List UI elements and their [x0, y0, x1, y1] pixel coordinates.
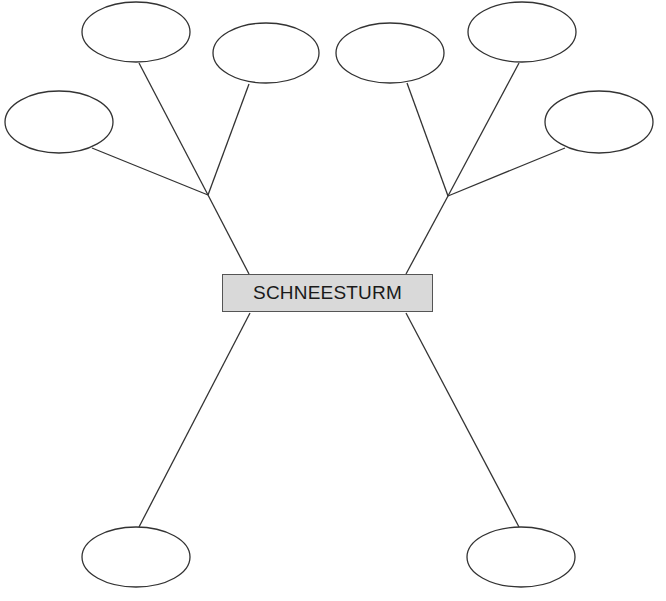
- connector-line: [139, 313, 250, 527]
- ellipse-node[interactable]: [82, 527, 190, 587]
- connector-line: [92, 148, 208, 195]
- center-topic-label: SCHNEESTURM: [253, 282, 402, 304]
- ellipse-node[interactable]: [82, 2, 190, 62]
- connector-line: [208, 84, 249, 195]
- ellipse-node[interactable]: [468, 2, 576, 62]
- center-topic-box[interactable]: SCHNEESTURM: [222, 274, 433, 312]
- connector-line: [407, 83, 448, 196]
- connector-line: [448, 63, 519, 196]
- ellipse-node[interactable]: [545, 91, 653, 153]
- ellipse-node[interactable]: [467, 527, 575, 587]
- ellipse-node[interactable]: [213, 23, 319, 83]
- connector-line: [406, 196, 448, 274]
- connector-line: [406, 313, 519, 527]
- connector-line: [139, 63, 208, 195]
- ellipse-node[interactable]: [5, 91, 113, 153]
- connector-line: [448, 148, 565, 196]
- ellipse-node[interactable]: [336, 23, 444, 83]
- connector-line: [208, 195, 249, 274]
